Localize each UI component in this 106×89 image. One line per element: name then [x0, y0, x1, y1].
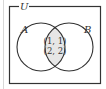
set-b-label: B: [83, 24, 91, 35]
set-a-label: A: [20, 24, 28, 35]
intersection-element: (2, 2): [44, 46, 67, 56]
intersection-element: (1, 1): [44, 36, 67, 46]
venn-diagram: U A B (1, 1) (2, 2): [0, 0, 106, 89]
universe-label: U: [20, 1, 29, 12]
